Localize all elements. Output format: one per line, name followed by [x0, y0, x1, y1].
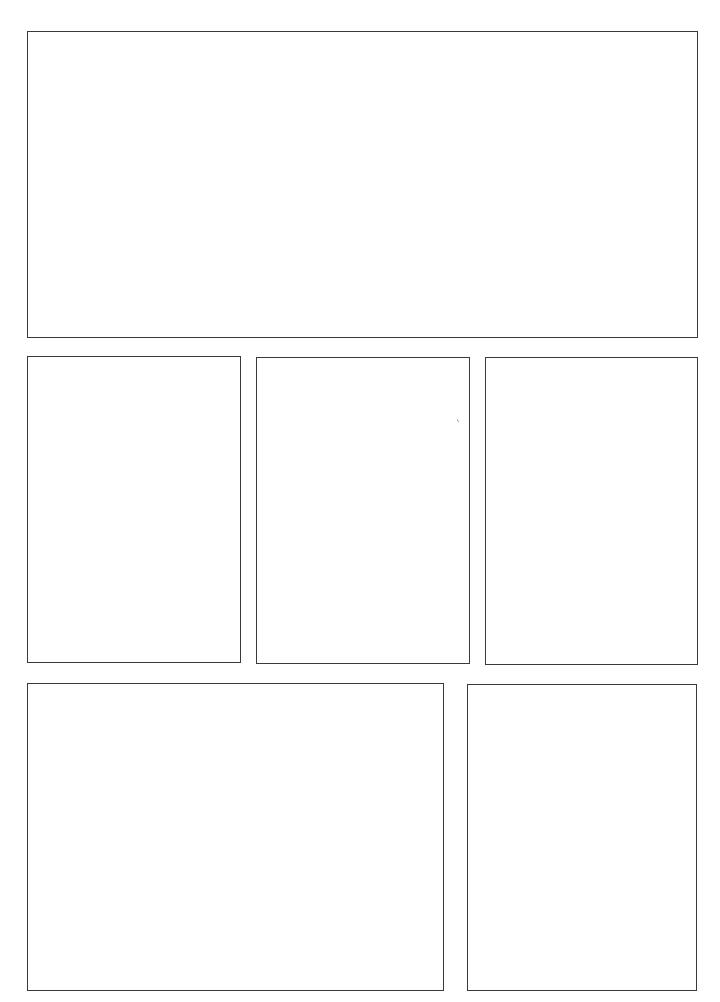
- panel-4: [485, 357, 698, 665]
- panel-1: [27, 31, 698, 338]
- panel-2: [27, 356, 241, 663]
- panel-3: [256, 357, 470, 664]
- panel-5: [27, 683, 444, 991]
- panel-6: [467, 684, 697, 991]
